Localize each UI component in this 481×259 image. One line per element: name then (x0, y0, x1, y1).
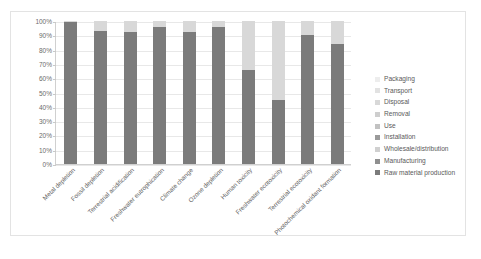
chart-frame: 100%90%80%70%60%50%40%30%20%10%0% Metal … (10, 11, 466, 236)
bar-segment (183, 32, 196, 164)
bar-segment (94, 31, 107, 164)
y-axis-tickmark (53, 65, 56, 66)
y-axis-tick-label: 30% (39, 119, 52, 126)
y-axis-tickmark (53, 79, 56, 80)
y-axis-tick-label: 90% (39, 33, 52, 40)
y-axis-tickmark (53, 122, 56, 123)
y-axis-tick-label: 100% (35, 19, 52, 26)
legend-item[interactable]: Disposal (375, 99, 475, 106)
legend-label: Use (384, 123, 396, 130)
legend-item[interactable]: Manufacturing (375, 158, 475, 165)
x-axis-category-labels: Metal depletionFossil depletionTerrestri… (55, 167, 355, 237)
legend-swatch-icon (375, 159, 380, 164)
legend-item[interactable]: Use (375, 123, 475, 130)
bar-segment (212, 27, 225, 164)
bar-column (64, 21, 77, 164)
bar-segment (94, 21, 107, 31)
y-axis-tick-label: 50% (39, 90, 52, 97)
y-axis-tickmark (53, 136, 56, 137)
legend-item[interactable]: Packaging (375, 76, 475, 83)
bar-segment (272, 100, 285, 164)
bar-segment (272, 21, 285, 100)
legend-label: Packaging (384, 76, 415, 83)
bar-column (212, 21, 225, 164)
bar-segment (183, 21, 196, 32)
y-axis-tickmark (53, 51, 56, 52)
bar-segment (124, 32, 137, 164)
bar-column (94, 21, 107, 164)
y-axis-tickmark (53, 94, 56, 95)
legend-swatch-icon (375, 100, 380, 105)
y-axis-tickmark (53, 151, 56, 152)
y-axis-tick-label: 40% (39, 105, 52, 112)
y-axis-tick-label: 0% (43, 162, 52, 169)
legend-swatch-icon (375, 170, 380, 175)
y-axis-tick-label: 20% (39, 133, 52, 140)
legend-label: Manufacturing (384, 158, 426, 165)
x-axis-category-label: Freshwater eutrophication (109, 167, 165, 223)
bar-segment (331, 21, 344, 44)
legend-label: Wholesale/distribution (384, 146, 449, 153)
plot-area: 100%90%80%70%60%50%40%30%20%10%0% (55, 22, 351, 165)
legend-swatch-icon (375, 88, 380, 93)
bar-segment (124, 21, 137, 32)
legend-item[interactable]: Raw material production (375, 170, 475, 177)
legend-label: Disposal (384, 99, 409, 106)
y-axis-tickmark (53, 108, 56, 109)
legend-label: Transport (384, 88, 412, 95)
bar-column (331, 21, 344, 164)
x-axis-category-label: Photochemical oxidant formation (274, 167, 343, 236)
bar-segment (242, 70, 255, 164)
legend-label: Installation (384, 134, 416, 141)
legend-label: Raw material production (384, 170, 455, 177)
legend-label: Removal (384, 111, 410, 118)
legend-swatch-icon (375, 135, 380, 140)
y-axis-tickmark (53, 22, 56, 23)
y-axis-tick-label: 10% (39, 147, 52, 154)
bar-segment (64, 22, 77, 164)
legend-item[interactable]: Transport (375, 88, 475, 95)
bar-column (301, 21, 314, 164)
y-axis-tick-label: 70% (39, 62, 52, 69)
bar-column (242, 21, 255, 164)
legend-item[interactable]: Wholesale/distribution (375, 146, 475, 153)
legend-swatch-icon (375, 77, 380, 82)
chart-legend: PackagingTransportDisposalRemovalUseInst… (375, 76, 475, 181)
y-axis-tickmark (53, 36, 56, 37)
bar-column (124, 21, 137, 164)
bar-column (183, 21, 196, 164)
bar-column (272, 21, 285, 164)
bar-segment (331, 44, 344, 164)
legend-swatch-icon (375, 124, 380, 129)
y-axis-tick-label: 60% (39, 76, 52, 83)
bar-segment (301, 21, 314, 35)
legend-item[interactable]: Removal (375, 111, 475, 118)
legend-swatch-icon (375, 112, 380, 117)
legend-item[interactable]: Installation (375, 134, 475, 141)
bar-column (153, 21, 166, 164)
bar-segment (153, 27, 166, 164)
legend-swatch-icon (375, 147, 380, 152)
bar-segment (242, 21, 255, 70)
bar-segment (301, 35, 314, 164)
y-axis-tick-label: 80% (39, 47, 52, 54)
y-axis-tickmark (53, 165, 56, 166)
